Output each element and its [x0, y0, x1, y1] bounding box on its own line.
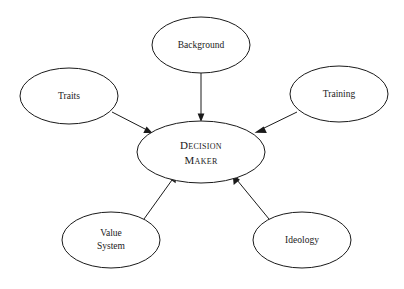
- node-ideology-label: Ideology: [285, 235, 319, 245]
- node-traits-label: Traits: [58, 91, 80, 101]
- node-decision-maker-label-line1: Decision: [180, 139, 222, 151]
- node-training-label: Training: [323, 89, 356, 99]
- edge-ideology-line: [237, 180, 269, 219]
- edge-ideology-to-center: [233, 174, 269, 219]
- edge-traits-line: [112, 112, 147, 130]
- edge-traits-to-center: [112, 112, 153, 133]
- node-training[interactable]: Training: [290, 66, 388, 122]
- edge-value-system-line: [144, 180, 172, 219]
- edge-background-to-center: [198, 73, 205, 122]
- diagram-root: Background Traits Training Value System …: [0, 0, 404, 289]
- node-value-system-label-line1: Value: [100, 228, 122, 238]
- edge-training-line: [260, 112, 297, 130]
- node-background-label: Background: [178, 40, 225, 50]
- node-value-system-ellipse[interactable]: [62, 212, 160, 268]
- node-decision-maker-ellipse[interactable]: [137, 121, 265, 183]
- edge-value-system-to-center: [144, 174, 176, 219]
- node-background[interactable]: Background: [152, 17, 250, 73]
- node-ideology[interactable]: Ideology: [253, 212, 351, 268]
- edge-training-to-center: [255, 112, 298, 133]
- node-traits[interactable]: Traits: [20, 68, 118, 124]
- node-decision-maker[interactable]: Decision Maker: [137, 121, 265, 183]
- node-value-system[interactable]: Value System: [62, 212, 160, 268]
- concept-map-canvas: Background Traits Training Value System …: [0, 0, 404, 289]
- node-decision-maker-label-line2: Maker: [184, 154, 217, 166]
- node-value-system-label-line2: System: [97, 241, 126, 251]
